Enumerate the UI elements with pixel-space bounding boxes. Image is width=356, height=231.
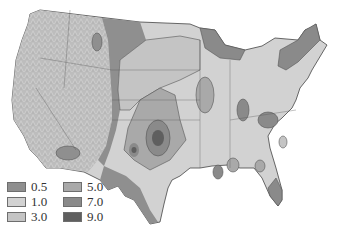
legend-label: 0.5 bbox=[31, 180, 47, 193]
legend-label: 3.0 bbox=[31, 210, 47, 223]
legend-item: 5.0 bbox=[63, 180, 103, 193]
legend-label: 7.0 bbox=[87, 195, 103, 208]
legend-swatch bbox=[7, 212, 26, 222]
legend-label: 5.0 bbox=[87, 180, 103, 193]
legend-item: 1.0 bbox=[7, 195, 47, 208]
legend-item: 7.0 bbox=[63, 195, 103, 208]
legend-label: 9.0 bbox=[87, 210, 103, 223]
legend-item: 9.0 bbox=[63, 210, 103, 223]
legend: 0.5 1.0 3.0 5.0 7.0 9.0 bbox=[7, 180, 132, 226]
legend-label: 1.0 bbox=[31, 195, 47, 208]
legend-swatch bbox=[63, 212, 82, 222]
legend-swatch bbox=[7, 182, 26, 192]
legend-swatch bbox=[63, 197, 82, 207]
legend-item: 0.5 bbox=[7, 180, 47, 193]
legend-item: 3.0 bbox=[7, 210, 47, 223]
legend-swatch bbox=[7, 197, 26, 207]
legend-swatch bbox=[63, 182, 82, 192]
